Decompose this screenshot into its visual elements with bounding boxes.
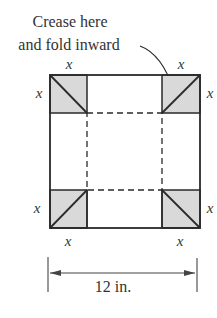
- caption-line-2: and fold inward: [18, 36, 119, 53]
- label-bottom-right-x: x: [176, 233, 184, 249]
- label-right-top-x: x: [206, 85, 214, 101]
- label-left-bottom-x: x: [33, 200, 41, 216]
- corner-bottom-right: [162, 190, 200, 228]
- label-bottom-left-x: x: [64, 233, 72, 249]
- label-right-bottom-x: x: [206, 200, 214, 216]
- dimension-label: 12 in.: [95, 278, 131, 295]
- fold-line-square: [87, 113, 162, 190]
- label-top-right-x: x: [177, 56, 185, 72]
- corner-top-right: [162, 75, 200, 113]
- caption-line-1: Crease here: [32, 13, 107, 30]
- label-top-left-x: x: [65, 56, 73, 72]
- folding-diagram: Crease here and fold inward x x x x x x …: [0, 0, 217, 318]
- corner-bottom-left: [50, 190, 87, 228]
- label-left-top-x: x: [35, 85, 43, 101]
- corner-top-left: [50, 75, 87, 113]
